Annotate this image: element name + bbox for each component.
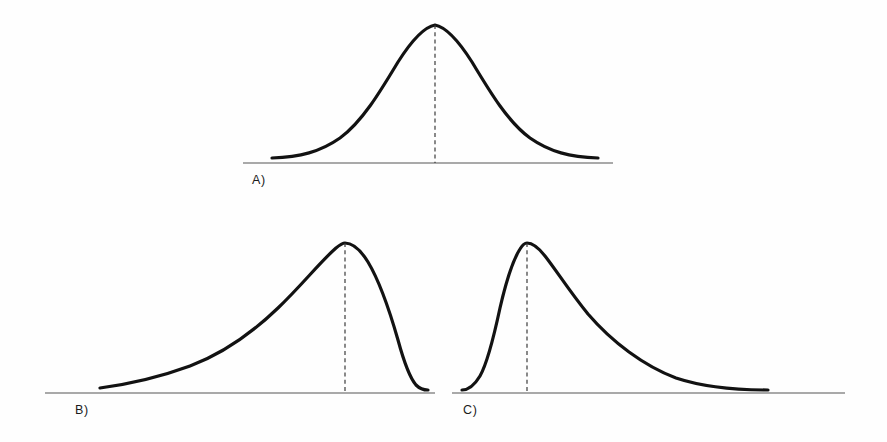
panel-a: A) [243,25,613,187]
panel-b-curve [100,243,428,390]
distribution-shapes-figure: A) B) C) [0,0,887,442]
figure-canvas: A) B) C) [0,0,887,442]
panel-a-label: A) [252,173,266,187]
panel-b-label: B) [75,403,89,417]
panel-c: C) [452,243,845,417]
panel-c-curve [462,243,768,390]
panel-b: B) [45,243,435,417]
panel-c-label: C) [463,403,477,417]
